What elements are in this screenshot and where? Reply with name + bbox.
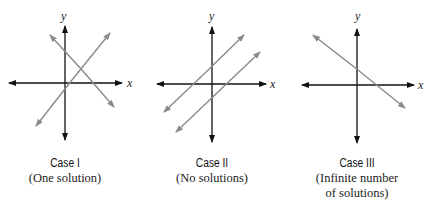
line-a <box>204 35 244 74</box>
case-2-title: Case II <box>187 156 238 170</box>
y-axis-label: y <box>354 9 361 23</box>
line-b <box>82 70 114 107</box>
case-1-graph: y x <box>9 9 133 140</box>
x-axis-label: x <box>269 77 276 91</box>
y-axis-label: y <box>208 9 215 23</box>
y-axis-label: y <box>60 9 67 23</box>
case-3-graph: y x <box>302 9 424 143</box>
case-3-subtitle-line1: (Infinite number <box>302 171 412 186</box>
x-axis-label: x <box>417 78 424 92</box>
line-a <box>72 33 110 80</box>
coincident-line <box>313 35 358 70</box>
case-2-graph: y x <box>157 9 276 142</box>
line-b <box>218 52 260 92</box>
case-3-title: Case III <box>332 156 383 170</box>
case-1-subtitle: (One solution) <box>15 171 115 186</box>
coincident-line <box>358 70 405 108</box>
case-3-subtitle-line2: of solutions) <box>302 186 412 201</box>
case-1-title: Case I <box>40 156 91 170</box>
case-2-subtitle: (No solutions) <box>157 171 267 186</box>
x-axis-label: x <box>126 76 133 90</box>
line-a <box>36 80 72 126</box>
line-a <box>164 74 204 112</box>
line-b <box>50 35 82 70</box>
